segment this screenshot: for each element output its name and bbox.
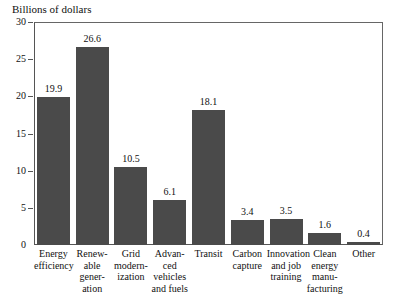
bar-value-label: 10.5 (106, 153, 155, 164)
y-tick-label: 15 (16, 129, 26, 139)
x-category-label-line: Energy (34, 248, 73, 260)
x-category-label-line: vehicles (150, 271, 189, 283)
x-category-label: Renew-ablegener-ation (73, 248, 112, 294)
x-category-label-line: Advan- (150, 248, 189, 260)
x-category-label-line: Other (344, 248, 383, 260)
y-tick-mark (28, 59, 33, 60)
bar-group[interactable]: 10.5 (114, 22, 147, 245)
x-category-label-line: Innovation (267, 248, 306, 260)
bar-group[interactable]: 0.4 (347, 22, 380, 245)
x-category-label-line: and fuels (150, 283, 189, 295)
x-category-label: Advan-cedvehiclesand fuels (150, 248, 189, 294)
chart-page: Billions of dollars 302520151050 19.926.… (0, 0, 400, 304)
bar-value-label: 19.9 (29, 83, 78, 94)
y-tick-mark (28, 96, 33, 97)
bar[interactable] (270, 219, 303, 245)
x-category-label: Innovationand jobtraining (267, 248, 306, 283)
x-category-label-line: Renew- (73, 248, 112, 260)
bar-value-label: 0.4 (339, 228, 388, 239)
y-tick-label: 25 (16, 54, 26, 64)
bar[interactable] (37, 97, 70, 245)
x-category-label-line: able (73, 260, 112, 272)
y-tick-mark (28, 171, 33, 172)
x-category-label-line: efficiency (34, 260, 73, 272)
bar-group[interactable]: 1.6 (308, 22, 341, 245)
x-category-label: Gridmodern-ization (112, 248, 151, 283)
y-tick-mark (28, 22, 33, 23)
bar-group[interactable]: 26.6 (76, 22, 109, 245)
bar-group[interactable]: 3.5 (270, 22, 303, 245)
x-axis-labels: EnergyefficiencyRenew-ablegener-ationGri… (34, 248, 383, 304)
bar[interactable] (153, 200, 186, 245)
bar-value-label: 18.1 (184, 96, 233, 107)
x-category-label: Cleanenergymanu-facturing (305, 248, 344, 294)
y-tick-label: 10 (16, 166, 26, 176)
x-category-label-line: ced (150, 260, 189, 272)
bar-value-label: 26.6 (68, 33, 117, 44)
x-category-label-line: gener- (73, 271, 112, 283)
y-tick-mark (28, 134, 33, 135)
x-category-label-line: training (267, 271, 306, 283)
bar-value-label: 3.5 (262, 205, 311, 216)
bar-group[interactable]: 18.1 (192, 22, 225, 245)
bar[interactable] (192, 110, 225, 245)
y-tick-label: 20 (16, 91, 26, 101)
x-category-label-line: energy (305, 260, 344, 272)
x-category-label-line: Transit (189, 248, 228, 260)
y-tick-label: 5 (21, 203, 26, 213)
x-category-label-line: Grid (112, 248, 151, 260)
x-category-label-line: Carbon (228, 248, 267, 260)
x-category-label: Carboncapture (228, 248, 267, 271)
x-category-label-line: capture (228, 260, 267, 272)
y-tick-label: 30 (16, 17, 26, 27)
chart-title: Billions of dollars (12, 3, 91, 16)
x-category-label-line: ation (73, 283, 112, 295)
y-tick-label: 0 (21, 240, 26, 250)
x-category-label-line: manu- (305, 271, 344, 283)
x-category-label-line: ization (112, 271, 151, 283)
x-category-label: Transit (189, 248, 228, 260)
bar-group[interactable]: 19.9 (37, 22, 70, 245)
bar-value-label: 6.1 (145, 186, 194, 197)
bar[interactable] (308, 233, 341, 245)
x-category-label-line: modern- (112, 260, 151, 272)
x-category-label: Other (344, 248, 383, 260)
bar[interactable] (114, 167, 147, 245)
bar-group[interactable]: 3.4 (231, 22, 264, 245)
bar-group[interactable]: 6.1 (153, 22, 186, 245)
y-tick-mark (28, 208, 33, 209)
bar[interactable] (76, 47, 109, 245)
bar[interactable] (231, 220, 264, 245)
x-category-label-line: facturing (305, 283, 344, 295)
bars-layer: 19.926.610.56.118.13.43.51.60.4 (34, 22, 383, 245)
x-category-label-line: and job (267, 260, 306, 272)
x-category-label-line: Clean (305, 248, 344, 260)
x-category-label: Energyefficiency (34, 248, 73, 271)
bar[interactable] (347, 242, 380, 245)
y-axis: 302520151050 (0, 22, 34, 245)
